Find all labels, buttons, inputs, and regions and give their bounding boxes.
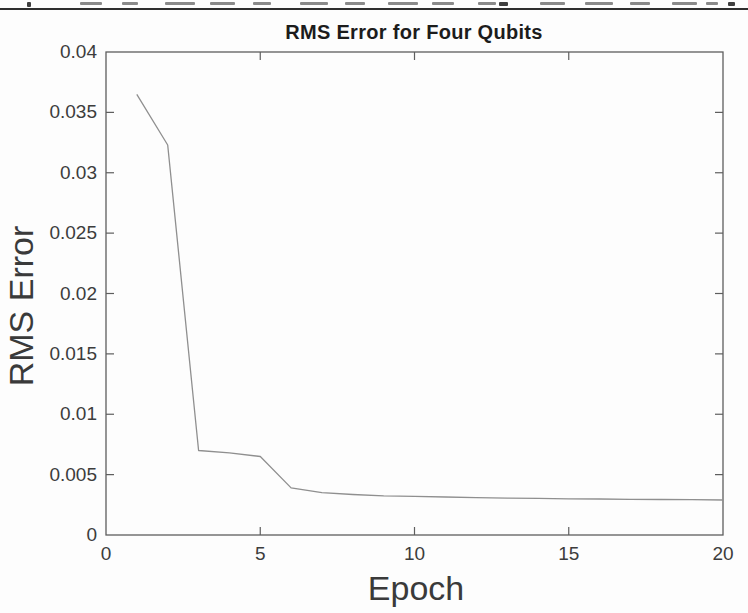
y-tick-label: 0.015 (49, 342, 97, 364)
y-tick-label: 0.025 (49, 222, 97, 244)
y-tick-label: 0.035 (49, 101, 97, 123)
x-tick-label: 10 (404, 543, 425, 565)
y-tick-label: 0 (86, 524, 97, 546)
y-tick-label: 0.02 (60, 282, 97, 304)
rms-error-chart: RMS Error for Four Qubits RMS Error Epoc… (0, 0, 748, 613)
scanned-page: RMS Error for Four Qubits RMS Error Epoc… (0, 0, 748, 613)
y-tick-label: 0.03 (60, 161, 97, 183)
x-tick-label: 0 (101, 543, 112, 565)
x-tick-label: 20 (712, 543, 733, 565)
curve-line (137, 94, 723, 500)
y-tick-label: 0.01 (60, 403, 97, 425)
y-tick-label: 0.04 (60, 41, 97, 63)
y-tick-label: 0.005 (49, 463, 97, 485)
plot-box (106, 52, 723, 535)
plot-area (0, 0, 748, 613)
x-tick-label: 5 (255, 543, 266, 565)
x-tick-label: 15 (558, 543, 579, 565)
